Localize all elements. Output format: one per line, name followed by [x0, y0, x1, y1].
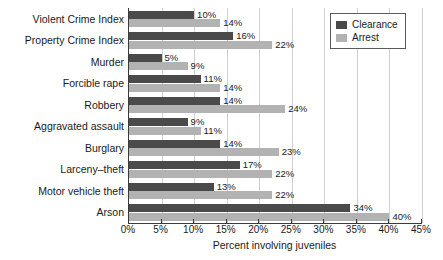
- bar-fill: [129, 105, 285, 113]
- bar-group: 11%14%: [129, 73, 422, 95]
- bar-fill: [129, 170, 272, 178]
- bar-fill: [129, 97, 220, 105]
- bar-arrest: 40%: [129, 213, 389, 221]
- bar-value-label: 9%: [191, 61, 205, 71]
- bar-fill: [129, 127, 201, 135]
- legend-swatch: [336, 21, 347, 29]
- x-tick-label: 35%: [346, 224, 366, 235]
- bar-value-label: 14%: [223, 18, 242, 28]
- legend-swatch: [336, 34, 347, 42]
- bar-group: 14%23%: [129, 137, 422, 159]
- bar-value-label: 13%: [217, 182, 236, 192]
- bar-arrest: 22%: [129, 170, 272, 178]
- x-tick-label: 0%: [121, 224, 135, 235]
- x-tick-mark: [356, 219, 357, 223]
- x-tick-mark: [421, 219, 422, 223]
- x-tick-mark: [258, 219, 259, 223]
- x-tick-label: 5%: [153, 224, 167, 235]
- bar-arrest: 24%: [129, 105, 285, 113]
- bar-fill: [129, 118, 188, 126]
- bar-value-label: 14%: [223, 139, 242, 149]
- bar-value-label: 11%: [204, 74, 222, 84]
- bar-clearance: 5%: [129, 54, 162, 62]
- bar-value-label: 22%: [275, 169, 294, 179]
- x-tick-mark: [193, 219, 194, 223]
- x-tick-label: 40%: [378, 224, 398, 235]
- x-tick-mark: [388, 219, 389, 223]
- bar-fill: [129, 41, 272, 49]
- bar-value-label: 11%: [204, 126, 222, 136]
- x-axis-ticks: 0%5%10%15%20%25%30%35%40%45%: [128, 224, 421, 238]
- legend-entry: Clearance: [336, 18, 398, 31]
- bar-fill: [129, 161, 240, 169]
- chart-legend: ClearanceArrest: [330, 13, 406, 49]
- y-axis-label: Burglary: [85, 137, 124, 159]
- bar-value-label: 40%: [392, 212, 411, 222]
- bar-group: 34%40%: [129, 202, 422, 224]
- bar-clearance: 17%: [129, 161, 240, 169]
- bar-arrest: 11%: [129, 127, 201, 135]
- y-axis-label: Violent Crime Index: [33, 8, 124, 30]
- x-tick-label: 30%: [313, 224, 333, 235]
- bar-fill: [129, 191, 272, 199]
- y-axis-label: Arson: [97, 202, 124, 224]
- y-axis-category-labels: Violent Crime IndexProperty Crime IndexM…: [0, 8, 124, 223]
- bar-clearance: 14%: [129, 140, 220, 148]
- bar-fill: [129, 19, 220, 27]
- bar-fill: [129, 183, 214, 191]
- bar-fill: [129, 213, 389, 221]
- bar-value-label: 17%: [243, 160, 262, 170]
- y-axis-label: Forcible rape: [63, 73, 124, 95]
- bar-clearance: 10%: [129, 11, 194, 19]
- bar-group: 14%24%: [129, 94, 422, 116]
- x-tick-mark: [291, 219, 292, 223]
- x-tick-mark: [226, 219, 227, 223]
- bar-fill: [129, 84, 220, 92]
- bar-arrest: 14%: [129, 19, 220, 27]
- legend-label: Arrest: [352, 32, 379, 43]
- bar-value-label: 5%: [165, 53, 179, 63]
- x-tick-mark: [128, 219, 129, 223]
- y-axis-label: Larceny–theft: [60, 159, 124, 181]
- bar-fill: [129, 148, 279, 156]
- bar-group: 13%22%: [129, 180, 422, 202]
- x-tick-mark: [323, 219, 324, 223]
- bar-fill: [129, 75, 201, 83]
- bar-arrest: 22%: [129, 191, 272, 199]
- bar-value-label: 34%: [353, 203, 372, 213]
- legend-label: Clearance: [352, 19, 398, 30]
- bar-value-label: 14%: [223, 96, 242, 106]
- legend-entry: Arrest: [336, 31, 398, 44]
- bar-fill: [129, 140, 220, 148]
- bar-group: 9%11%: [129, 116, 422, 138]
- bar-group: 5%9%: [129, 51, 422, 73]
- bar-value-label: 14%: [223, 83, 242, 93]
- bar-clearance: 13%: [129, 183, 214, 191]
- x-tick-label: 25%: [281, 224, 301, 235]
- bar-group: 17%22%: [129, 159, 422, 181]
- bar-value-label: 9%: [191, 117, 205, 127]
- bar-arrest: 22%: [129, 41, 272, 49]
- y-axis-label: Aggravated assault: [34, 116, 124, 138]
- y-axis-label: Robbery: [84, 94, 124, 116]
- bar-arrest: 14%: [129, 84, 220, 92]
- bar-value-label: 10%: [197, 10, 216, 20]
- bar-value-label: 24%: [288, 104, 307, 114]
- x-tick-label: 15%: [216, 224, 236, 235]
- bar-fill: [129, 11, 194, 19]
- y-axis-label: Motor vehicle theft: [38, 180, 124, 202]
- bar-clearance: 9%: [129, 118, 188, 126]
- bar-value-label: 23%: [282, 147, 301, 157]
- x-tick-mark: [161, 219, 162, 223]
- bar-arrest: 23%: [129, 148, 279, 156]
- grouped-bar-chart: Violent Crime IndexProperty Crime IndexM…: [0, 0, 443, 260]
- bar-fill: [129, 32, 233, 40]
- y-axis-label: Murder: [91, 51, 124, 73]
- gridline: [422, 8, 423, 223]
- bar-clearance: 16%: [129, 32, 233, 40]
- x-tick-label: 20%: [248, 224, 268, 235]
- bar-clearance: 34%: [129, 204, 350, 212]
- bar-clearance: 14%: [129, 97, 220, 105]
- bar-fill: [129, 204, 350, 212]
- bar-value-label: 16%: [236, 31, 255, 41]
